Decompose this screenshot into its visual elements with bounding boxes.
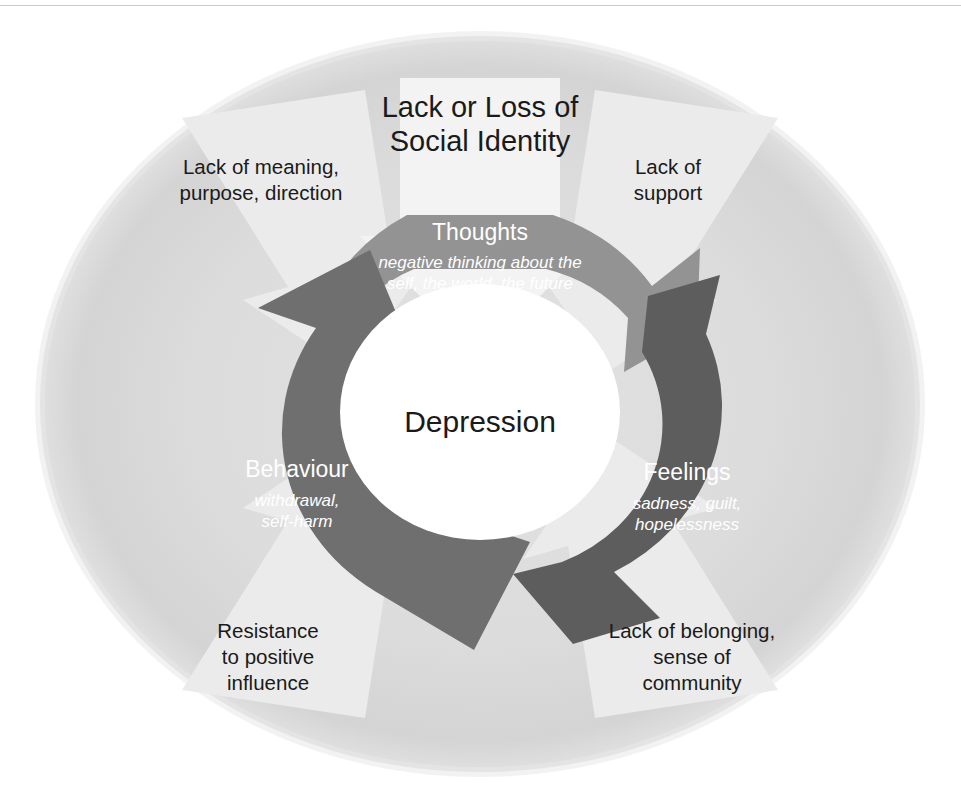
centre-label: Depression: [404, 405, 556, 438]
cycle-node-label-feelings: Feelings sadness, guilt, hopelessness: [633, 459, 742, 534]
outer-factor-line1: Lack of meaning,: [183, 155, 339, 178]
cycle-diagram-canvas: Lack or Loss of Social Identity Lack of …: [0, 0, 961, 807]
cycle-node-title: Feelings: [644, 459, 731, 485]
cycle-node-sub-line1: negative thinking about the: [378, 253, 581, 272]
outer-factor-line1: Lack of belonging,: [609, 619, 775, 642]
outer-factor-line2: sense of: [653, 645, 731, 668]
cycle-node-sub-line1: withdrawal,: [254, 491, 339, 510]
outer-factor-line3: influence: [227, 671, 309, 694]
outer-factor-line2: to positive: [222, 645, 314, 668]
cycle-node-sub-line2: self-harm: [262, 512, 333, 531]
cycle-node-sub-line2: hopelessness: [635, 515, 739, 534]
cycle-node-sub-line2: self, the world, the future: [387, 274, 573, 293]
cycle-node-title: Thoughts: [432, 219, 528, 245]
centre-label-text: Depression: [404, 405, 556, 438]
cycle-node-title: Behaviour: [245, 456, 349, 482]
diagram-title-line1: Lack or Loss of: [382, 91, 580, 123]
outer-factor-label-resistance: Resistance to positive influence: [217, 619, 318, 694]
outer-factor-line2: purpose, direction: [180, 181, 343, 204]
diagram-title-line2: Social Identity: [390, 125, 571, 157]
outer-factor-line2: support: [634, 181, 703, 204]
cycle-node-sub-line1: sadness, guilt,: [633, 494, 742, 513]
outer-factor-line1: Resistance: [217, 619, 318, 642]
outer-factor-line1: Lack of: [635, 155, 701, 178]
depression-cycle-diagram: Lack or Loss of Social Identity Lack of …: [0, 0, 961, 807]
outer-factor-line3: community: [642, 671, 742, 694]
